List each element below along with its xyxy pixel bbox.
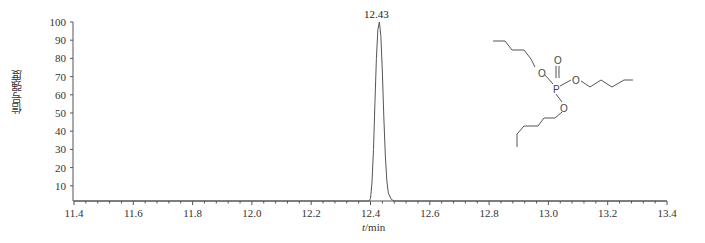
oxygen-atom-label: O	[560, 103, 568, 114]
oxygen-atom-label: O	[572, 75, 580, 86]
chromatogram-trace	[74, 22, 667, 201]
x-tick-label: 11.6	[124, 207, 143, 219]
x-axis: 11.411.611.812.012.212.412.612.813.013.2…	[65, 201, 678, 219]
y-tick-label: 40	[55, 125, 67, 137]
x-tick-label: 12.8	[479, 207, 499, 219]
y-axis: 102030405060708090100	[50, 16, 74, 201]
molecule-atoms: O O P O O	[538, 55, 580, 114]
y-tick-label: 80	[55, 52, 67, 64]
x-tick-label: 12.4	[361, 207, 381, 219]
phosphorus-atom-label: P	[553, 84, 560, 95]
y-tick-label: 100	[50, 16, 67, 28]
y-tick-label: 50	[55, 107, 67, 119]
x-tick-label: 13.2	[598, 207, 617, 219]
oxygen-atom-label: O	[538, 68, 546, 79]
y-tick-label: 60	[55, 89, 67, 101]
series-line	[74, 22, 667, 201]
y-tick-label: 10	[55, 180, 67, 192]
chromatogram-chart: 102030405060708090100 11.411.611.812.012…	[0, 0, 705, 243]
x-tick-label: 12.2	[302, 207, 321, 219]
y-tick-label: 30	[55, 143, 67, 155]
tributyl-phosphate-structure	[493, 41, 633, 147]
x-axis-label: t/min	[362, 221, 385, 233]
y-tick-label: 90	[55, 34, 67, 46]
peak-retention-time-label: 12.43	[364, 8, 389, 20]
y-tick-label: 70	[55, 71, 67, 83]
x-tick-label: 11.4	[65, 207, 84, 219]
x-tick-label: 13.0	[539, 207, 559, 219]
y-tick-label: 20	[55, 162, 67, 174]
x-tick-label: 13.4	[657, 207, 677, 219]
x-axis-unit: /min	[365, 221, 385, 233]
y-axis-label: 信号强度	[10, 70, 24, 114]
x-tick-label: 12.6	[420, 207, 440, 219]
x-tick-label: 12.0	[242, 207, 262, 219]
oxygen-double-bond-label: O	[554, 55, 562, 66]
x-tick-label: 11.8	[183, 207, 202, 219]
